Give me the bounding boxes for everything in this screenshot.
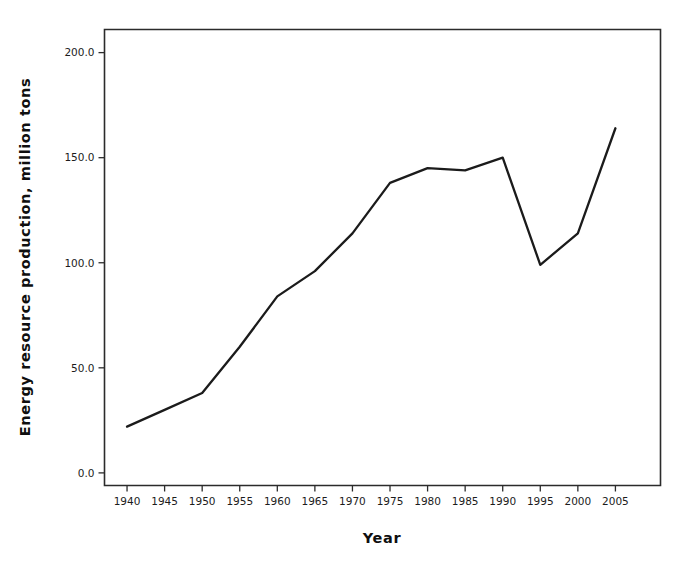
x-axis-tick-label: 1975 bbox=[377, 495, 404, 507]
y-axis-tick-label: 150.0 bbox=[64, 151, 94, 163]
x-axis-tick-label: 1965 bbox=[302, 495, 329, 507]
series-line-energy-resource-production bbox=[127, 128, 615, 426]
x-axis-tick-label: 1950 bbox=[189, 495, 216, 507]
y-axis-tick-label: 0.0 bbox=[78, 467, 95, 479]
x-axis: 1940194519501955196019651970197519801985… bbox=[114, 486, 629, 507]
x-axis-tick-label: 1985 bbox=[452, 495, 479, 507]
series-group bbox=[127, 128, 615, 426]
y-axis-tick-label: 50.0 bbox=[71, 362, 94, 374]
x-axis-tick-label: 1980 bbox=[414, 495, 441, 507]
x-axis-tick-label: 1995 bbox=[527, 495, 554, 507]
line-chart: 0.050.0100.0150.0200.0 19401945195019551… bbox=[0, 0, 681, 567]
x-axis-title: Year bbox=[362, 530, 402, 546]
chart-container: 0.050.0100.0150.0200.0 19401945195019551… bbox=[0, 0, 681, 567]
y-axis: 0.050.0100.0150.0200.0 bbox=[64, 46, 104, 478]
plot-frame bbox=[105, 30, 661, 486]
x-axis-tick-label: 1960 bbox=[264, 495, 291, 507]
x-axis-tick-label: 1945 bbox=[151, 495, 178, 507]
x-axis-tick-label: 1940 bbox=[114, 495, 141, 507]
y-axis-tick-label: 200.0 bbox=[64, 46, 94, 58]
x-axis-tick-label: 2000 bbox=[564, 495, 591, 507]
x-axis-tick-label: 1955 bbox=[226, 495, 253, 507]
x-axis-tick-label: 1970 bbox=[339, 495, 366, 507]
y-axis-title: Energy resource production, million tons bbox=[17, 78, 33, 436]
y-axis-tick-label: 100.0 bbox=[64, 257, 94, 269]
x-axis-tick-label: 1990 bbox=[489, 495, 516, 507]
x-axis-tick-label: 2005 bbox=[602, 495, 629, 507]
